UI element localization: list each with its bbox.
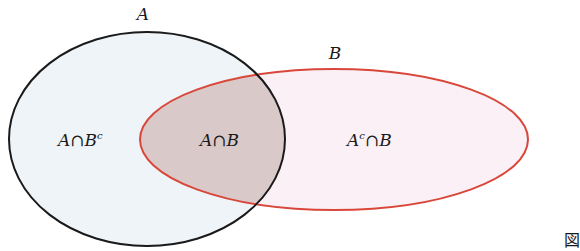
region-intersection-base: A (198, 130, 212, 150)
figure-label: 図 (564, 233, 580, 249)
set-b-title: B (328, 43, 342, 63)
region-b-only-base: A (345, 130, 359, 150)
intersection-symbol: ∩ (70, 130, 84, 150)
intersection-symbol: ∩ (212, 130, 226, 150)
region-b-only-rhs: B (378, 130, 392, 150)
region-b-only-label: Ac∩B (345, 130, 392, 150)
complement-superscript: c (97, 130, 103, 141)
region-a-only-label: A∩Bc (56, 130, 103, 150)
region-a-only-rhs: B (84, 130, 98, 150)
set-a-title: A (135, 4, 149, 24)
intersection-symbol: ∩ (365, 130, 379, 150)
region-a-only-base: A (56, 130, 70, 150)
region-intersection-rhs: B (226, 130, 240, 150)
region-intersection-label: A∩B (198, 130, 239, 150)
